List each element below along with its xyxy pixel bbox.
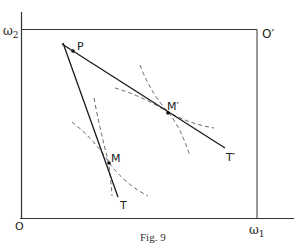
indifference-curve-m-b xyxy=(72,122,148,196)
svg-text:ω1: ω1 xyxy=(249,223,265,239)
point-P xyxy=(71,49,75,53)
labels: ω2 O′ O ω1 P M M′ T T′ Fig. 9 xyxy=(3,24,274,243)
label-M-prime: M′ xyxy=(167,100,179,113)
indifference-curves xyxy=(72,65,214,196)
figure-caption: Fig. 9 xyxy=(140,231,166,243)
svg-text:ω2: ω2 xyxy=(3,24,19,40)
indifference-curve-m-a xyxy=(94,98,112,196)
line-PT-prime xyxy=(62,44,225,148)
line-PT xyxy=(63,43,118,197)
label-T-prime: T′ xyxy=(225,151,236,164)
label-T: T xyxy=(119,199,127,212)
edgeworth-box-diagram: ω2 O′ O ω1 P M M′ T T′ Fig. 9 xyxy=(0,0,300,252)
x-axis-sub: 1 xyxy=(259,229,265,239)
opposite-origin-label: O′ xyxy=(262,27,274,41)
origin-label: O xyxy=(15,220,24,233)
label-P: P xyxy=(77,40,84,53)
y-axis-sub: 2 xyxy=(13,30,19,40)
x-axis-label: ω xyxy=(249,223,259,237)
label-M: M xyxy=(111,152,121,165)
y-axis-label: ω xyxy=(3,24,13,38)
indifference-curve-mprime-a xyxy=(140,65,190,156)
box-frame xyxy=(20,12,294,219)
price-lines xyxy=(62,43,225,197)
